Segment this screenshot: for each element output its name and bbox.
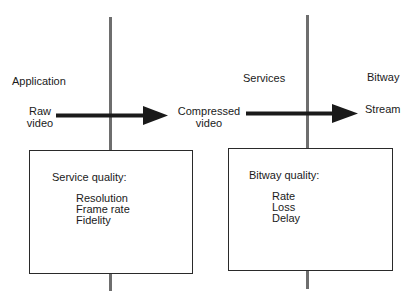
bitway-quality-items: Rate Loss Delay (272, 191, 300, 224)
service-quality-items: Resolution Frame rate Fidelity (76, 193, 130, 226)
layer-label-services: Services (243, 72, 285, 84)
flow-label-raw-line2: video (20, 117, 60, 129)
layer-label-application: Application (12, 75, 66, 87)
flow-label-raw-video: Raw video (20, 105, 60, 129)
layer-label-bitway: Bitway (367, 71, 399, 83)
flow-label-raw-line1: Raw (20, 105, 60, 117)
flow-label-stream: Stream (365, 103, 400, 115)
service-quality-item: Fidelity (76, 215, 130, 226)
service-quality-box: Service quality: Resolution Frame rate F… (29, 150, 193, 274)
flow-label-compressed-video: Compressed video (174, 105, 244, 129)
arrow-raw-to-compressed-icon (56, 106, 168, 125)
bitway-quality-title: Bitway quality: (249, 169, 319, 181)
bitway-quality-box: Bitway quality: Rate Loss Delay (228, 148, 393, 271)
flow-label-compressed-line1: Compressed (174, 105, 244, 117)
bitway-quality-item: Delay (272, 213, 300, 224)
flow-label-compressed-line2: video (174, 117, 244, 129)
arrow-compressed-to-stream-icon (246, 104, 358, 123)
service-quality-title: Service quality: (52, 171, 127, 183)
